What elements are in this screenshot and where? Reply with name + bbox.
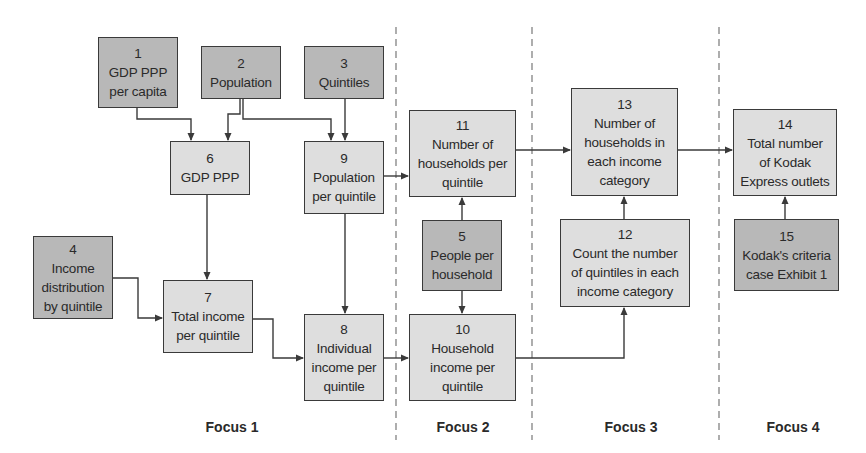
node-label-line: income category [577,282,673,301]
node-number: 1 [134,44,141,63]
node-13-households-in-each-category: 13 Number of households in each income c… [571,88,678,196]
node-number: 6 [206,149,213,168]
node-label-line: Population [313,168,375,187]
flow-diagram: 1 GDP PPP per capita 2 Population 3 Quin… [0,0,866,453]
node-number: 14 [778,115,793,134]
node-11-households-per-quintile: 11 Number of households per quintile [409,110,516,197]
node-label-line: household [432,265,493,284]
node-number: 9 [340,149,347,168]
node-label-line: case Exhibit 1 [746,265,827,284]
node-label-line: People per [430,246,493,265]
node-number: 12 [618,225,633,244]
node-8-individual-income-per-quintile: 8 Individual income per quintile [304,314,384,401]
node-label-line: of Kodak [759,153,811,172]
node-label-line: per quintile [312,187,376,206]
node-2-population: 2 Population [201,46,281,99]
node-14-total-kodak-express-outlets: 14 Total number of Kodak Express outlets [733,109,837,196]
focus-label-4: Focus 4 [767,419,820,435]
node-label-line: quintile [323,377,364,396]
node-label-line: per capita [109,82,166,101]
node-label-line: Individual [316,339,371,358]
focus-label-1: Focus 1 [206,419,259,435]
node-number: 4 [69,240,76,259]
node-10-household-income-per-quintile: 10 Household income per quintile [409,314,516,401]
node-15-kodak-criteria: 15 Kodak's criteria case Exhibit 1 [734,219,839,291]
node-label-line: each income [587,152,661,171]
node-number: 7 [204,288,211,307]
node-number: 8 [340,320,347,339]
node-label-line: households in [584,133,665,152]
node-label-line: Kodak's criteria [742,246,831,265]
focus-label-3: Focus 3 [605,419,658,435]
node-number: 3 [340,54,347,73]
node-label-line: Express outlets [740,172,829,191]
node-12-count-quintiles-per-category: 12 Count the number of quintiles in each… [560,219,690,307]
node-label-line: Count the number [573,244,678,263]
focus-label-2: Focus 2 [437,419,490,435]
node-label-line: GDP PPP [181,168,239,187]
node-7-total-income-per-quintile: 7 Total income per quintile [163,280,253,353]
edge-4-7 [113,278,162,318]
node-label-line: by quintile [44,297,103,316]
node-label-line: category [599,171,649,190]
node-6-gdp-ppp: 6 GDP PPP [170,141,250,195]
edge-2-6 [228,99,240,140]
node-label-line: income per [430,358,495,377]
node-5-people-per-household: 5 People per household [422,220,502,291]
edge-1-6 [137,108,191,140]
node-number: 2 [237,54,244,73]
node-label-line: Total income [171,307,244,326]
node-label-line: quintile [442,173,483,192]
edge-7-8 [253,319,303,358]
node-number: 10 [455,320,470,339]
node-label-line: Number of [594,114,655,133]
node-label-line: of quintiles in each [571,263,679,282]
node-number: 5 [458,227,465,246]
node-1-gdp-ppp-per-capita: 1 GDP PPP per capita [98,37,178,108]
node-number: 15 [779,227,794,246]
node-label-line: Population [210,73,272,92]
edge-2-9 [243,99,331,140]
node-3-quintiles: 3 Quintiles [304,46,384,99]
node-label-line: GDP PPP [109,63,167,82]
node-label-line: Household [431,339,494,358]
node-label-line: income per [312,358,377,377]
node-label-line: Total number [747,134,823,153]
node-label-line: distribution [42,278,105,297]
node-number: 11 [456,116,470,135]
node-label-line: Income [51,259,94,278]
node-number: 13 [617,95,632,114]
node-label-line: quintile [442,377,483,396]
node-label-line: Number of [432,135,493,154]
node-4-income-distribution: 4 Income distribution by quintile [33,236,113,319]
node-label-line: per quintile [176,326,240,345]
node-9-population-per-quintile: 9 Population per quintile [304,141,384,214]
node-label-line: Quintiles [319,73,370,92]
node-label-line: households per [418,154,508,173]
